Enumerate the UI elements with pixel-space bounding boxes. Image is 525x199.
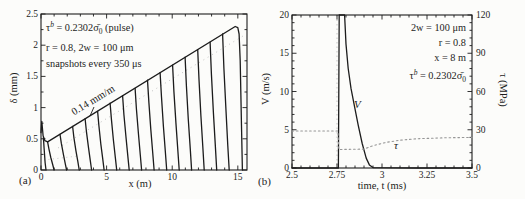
series-snapshot-front-06 [110,103,117,170]
series-snapshot-front-08 [135,88,142,170]
series-snapshot-front-15 [223,34,230,170]
panel-b-right-axis-title: τ (MPa) [498,73,509,107]
panel-a-x-axis-title: x (m) [128,178,151,189]
tick-label: 0 [39,172,44,182]
panel-b-annotations: 2w = 100 μm r = 0.8 x = 8 m τb = 0.2302σ… [352,20,466,87]
stress-curve-label: τ [394,139,398,151]
tick-label: 2.5 [26,9,38,19]
panel-a-y-axis-title: δ (mm) [8,73,19,104]
annotation-x: x = 8 m [352,50,466,65]
series-snapshot-front-04 [85,119,92,170]
annotation-r: r = 0.8 [352,35,466,50]
tick-label: 3.25 [419,170,436,180]
series-snapshot-front-14 [210,42,217,170]
tick-label: 5 [104,172,109,182]
tick-label: 20 [280,10,290,20]
series-snapshot-front-10 [160,73,167,170]
tick-label: 0 [33,165,38,175]
tick-label: 10 [167,172,177,182]
tick-label: 15 [233,172,243,182]
tick-label: 90 [476,48,486,58]
tick-label: 5 [284,125,289,135]
tick-label: 0 [476,163,481,173]
series-snapshot-front-11 [173,65,180,170]
series-snapshot-front-01 [48,142,55,170]
panel-a-label: (a) [19,174,31,186]
panel-b-x-axis-title: time, t (ms) [358,180,407,191]
series-snapshot-front-09 [148,80,155,170]
scan-artifact [44,156,78,160]
tick-label: 60 [476,87,486,97]
tick-label: 0.5 [26,134,38,144]
series-shear-stress [292,131,472,150]
annotation-tau-b: τb = 0.2302σ̄0 (pulse) [46,17,142,40]
annotation-fault-width: 2w = 100 μm [352,20,466,35]
tick-label: 30 [476,125,486,135]
series-snapshot-front-12 [185,57,192,170]
series-snapshot-front-02 [60,134,67,170]
tick-label: 2 [33,40,38,50]
tick-label: 120 [476,10,491,20]
series-nucleation-front [43,138,46,170]
tick-label: 0 [284,163,289,173]
series-snapshot-front-05 [98,111,105,170]
tick-label: 15 [280,48,290,58]
tick-label: 3 [380,170,385,180]
panel-b-label: (b) [258,175,271,187]
series-snapshot-front-13 [198,50,205,170]
annotation-parameters: r = 0.8, 2w = 100 μm [46,40,142,56]
series-snapshot-front-07 [123,96,130,170]
velocity-curve-label: V [354,98,361,110]
series-snapshot-front-03 [73,126,80,170]
panel-b-left-axis-title: V (m/s) [260,73,271,105]
panel-a-annotations: τb = 0.2302σ̄0 (pulse) r = 0.8, 2w = 100… [46,17,142,72]
tick-label: 1.5 [26,71,38,81]
tick-label: 2.75 [329,170,346,180]
annotation-snapshots: snapshots every 350 μs [46,56,142,72]
annotation-tau-b: τb = 0.2302σ̄0 [352,65,466,87]
tick-label: 10 [280,87,290,97]
tick-label: 1 [33,103,38,113]
scanned-figure: 05101500.511.522.5 2.52.7533.253.5051015… [0,0,525,199]
